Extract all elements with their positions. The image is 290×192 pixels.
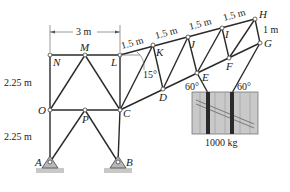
dim-boom-3: 1.5 m	[188, 15, 213, 32]
node-label-f: F	[225, 60, 233, 72]
angle-right-cable: 60°	[237, 81, 251, 92]
support-b	[110, 156, 126, 168]
dim-label-3m: 3 m	[76, 26, 92, 37]
node-label-n: N	[52, 56, 61, 68]
node-label-e: E	[201, 71, 209, 83]
node-label-i: I	[224, 28, 230, 40]
node-label-a: A	[34, 156, 42, 168]
node-label-o: O	[38, 104, 46, 116]
dim-upper-height: 2.25 m	[4, 77, 32, 88]
dim-boom-4: 1.5 m	[222, 6, 247, 23]
dim-boom-2: 1.5 m	[154, 24, 179, 41]
support-a	[42, 156, 58, 168]
angle-left-cable: 60°	[185, 81, 199, 92]
node-label-b: B	[126, 156, 133, 168]
dim-end-depth: 1 m	[263, 24, 279, 35]
node-label-d: D	[158, 91, 167, 103]
load-label: 1000 kg	[205, 137, 238, 148]
truss-figure: 3 m 2.25 m 2.25 m 1.5 m 1.5 m 1.5 m 1.5 …	[0, 0, 290, 192]
node-label-l: L	[110, 56, 117, 68]
angle-15: 15°	[143, 69, 157, 80]
ground-b	[104, 168, 132, 173]
crate	[192, 92, 258, 134]
node-label-h: H	[258, 8, 268, 20]
node-label-j: J	[190, 38, 196, 50]
node-label-p: P	[81, 113, 89, 125]
node-label-k: K	[155, 46, 164, 58]
node-label-g: G	[264, 37, 272, 49]
node-label-c: C	[123, 107, 131, 119]
dim-lower-height: 2.25 m	[4, 131, 32, 142]
dim-boom-1: 1.5 m	[120, 34, 145, 51]
node-label-m: M	[79, 41, 90, 53]
ground-a	[36, 168, 64, 173]
